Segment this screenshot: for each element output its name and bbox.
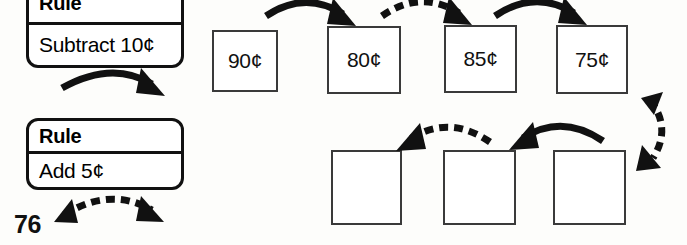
- rule-operation-2: Add 5¢: [39, 159, 104, 183]
- rule-card-body-1: Subtract 10¢: [29, 25, 181, 65]
- arrow-top-2-dashed: [382, 0, 472, 25]
- worksheet-page: Rule Subtract 10¢ Rule Add 5¢ 90¢ 80¢ 85…: [0, 0, 687, 245]
- answer-box-bottom-2[interactable]: [443, 150, 516, 225]
- rule-key-arrow-dashed-icon: [54, 196, 164, 223]
- rule-card-add: Rule Add 5¢: [26, 118, 184, 190]
- rule-label-2: Rule: [39, 125, 82, 148]
- rule-key-arrow-solid-icon: [62, 68, 165, 96]
- arrow-top-1-solid: [266, 0, 356, 26]
- number-box-top-1: 90¢: [212, 30, 278, 92]
- arrow-connector-dashed: [636, 92, 663, 171]
- answer-box-bottom-3[interactable]: [553, 150, 626, 225]
- answer-box-bottom-1[interactable]: [331, 150, 402, 225]
- rule-label-1: Rule: [39, 0, 82, 15]
- arrow-top-3-solid: [495, 0, 587, 25]
- page-number: 76: [14, 210, 41, 239]
- number-box-top-3: 85¢: [444, 25, 517, 93]
- rule-card-header-2: Rule: [29, 121, 181, 154]
- rule-card-header-1: Rule: [29, 0, 181, 25]
- number-box-top-4: 75¢: [556, 25, 628, 94]
- rule-card-body-2: Add 5¢: [29, 154, 181, 187]
- rule-card-subtract: Rule Subtract 10¢: [26, 0, 184, 68]
- arrow-bottom-2-dashed: [396, 123, 490, 151]
- arrow-bottom-1-solid: [509, 122, 603, 150]
- rule-operation-1: Subtract 10¢: [39, 33, 154, 57]
- number-box-top-2: 80¢: [327, 26, 401, 94]
